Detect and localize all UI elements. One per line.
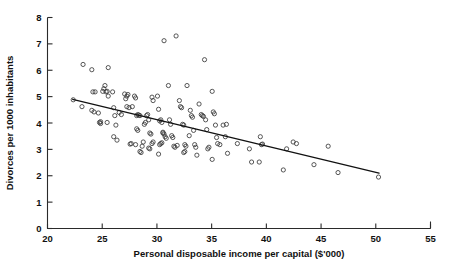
- data-point: [312, 163, 316, 167]
- data-point: [197, 102, 201, 106]
- data-point: [210, 89, 214, 93]
- data-point: [149, 132, 153, 136]
- data-point: [187, 134, 191, 138]
- data-points: [71, 34, 381, 179]
- data-point: [113, 114, 117, 118]
- data-point: [210, 157, 214, 161]
- data-point: [112, 135, 116, 139]
- data-point: [124, 97, 128, 101]
- data-point: [202, 58, 206, 62]
- x-tick-label: 35: [206, 233, 217, 244]
- data-point: [214, 135, 218, 139]
- data-point: [183, 149, 187, 153]
- data-point: [188, 108, 192, 112]
- data-point: [235, 141, 239, 145]
- data-point: [258, 135, 262, 139]
- data-point: [156, 107, 160, 111]
- x-tick-label: 40: [261, 233, 272, 244]
- data-point: [106, 66, 110, 70]
- data-point: [174, 34, 178, 38]
- plot-area: 0123456782025303540455055Personal dispos…: [0, 0, 449, 271]
- x-tick-label: 30: [152, 233, 163, 244]
- data-point: [204, 118, 208, 122]
- data-point: [115, 138, 119, 142]
- y-tick-label: 6: [36, 65, 41, 76]
- data-point: [138, 149, 142, 153]
- data-point: [281, 168, 285, 172]
- data-point: [247, 147, 251, 151]
- x-axis-title: Personal disposable income per capital (…: [134, 248, 345, 259]
- trendline: [73, 99, 379, 173]
- data-point: [166, 83, 170, 87]
- data-point: [81, 62, 85, 66]
- y-tick-label: 0: [36, 223, 41, 234]
- data-point: [80, 105, 84, 109]
- data-point: [139, 150, 143, 154]
- data-point: [156, 152, 160, 156]
- data-point: [111, 90, 115, 94]
- data-point: [179, 106, 183, 110]
- data-point: [167, 118, 171, 122]
- data-point: [148, 131, 152, 135]
- data-point: [376, 175, 380, 179]
- x-tick-label: 25: [97, 233, 108, 244]
- data-point: [182, 150, 186, 154]
- y-tick-label: 4: [36, 118, 42, 129]
- data-point: [105, 120, 109, 124]
- data-point: [249, 160, 253, 164]
- data-point: [336, 170, 340, 174]
- data-point: [106, 94, 110, 98]
- data-point: [194, 145, 198, 149]
- y-tick-label: 2: [36, 170, 41, 181]
- x-tick-label: 45: [316, 233, 327, 244]
- data-point: [146, 112, 150, 116]
- data-point: [193, 143, 197, 147]
- data-point: [225, 151, 229, 155]
- data-point: [96, 111, 100, 115]
- x-tick-label: 20: [42, 233, 53, 244]
- scatter-chart: 0123456782025303540455055Personal dispos…: [0, 0, 449, 271]
- x-tick-label: 50: [370, 233, 381, 244]
- data-point: [133, 143, 137, 147]
- data-point: [257, 160, 261, 164]
- y-axis-title: Divorces per 1000 inhabitants: [4, 56, 15, 191]
- data-point: [185, 83, 189, 87]
- data-point: [162, 39, 166, 43]
- data-point: [178, 105, 182, 109]
- data-point: [213, 123, 217, 127]
- data-point: [114, 123, 118, 127]
- data-point: [90, 68, 94, 72]
- regression-line: [73, 99, 379, 173]
- data-point: [195, 153, 199, 157]
- data-point: [326, 144, 330, 148]
- x-tick-label: 55: [425, 233, 436, 244]
- data-point: [140, 144, 144, 148]
- y-tick-label: 1: [36, 197, 42, 208]
- y-tick-label: 3: [36, 144, 41, 155]
- data-point: [141, 140, 145, 144]
- y-tick-label: 5: [36, 91, 42, 102]
- y-tick-label: 8: [36, 12, 41, 23]
- data-point: [155, 94, 159, 98]
- data-point: [177, 98, 181, 102]
- y-tick-label: 7: [36, 38, 41, 49]
